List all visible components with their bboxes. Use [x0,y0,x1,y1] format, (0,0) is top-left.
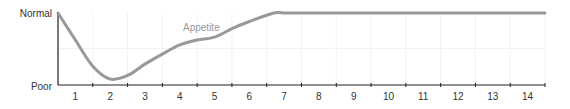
x-tick-label: 9 [351,91,357,102]
x-ticks: 1234567891011121314 [73,83,545,102]
x-tick-label: 11 [418,91,429,102]
x-tick-label: 8 [316,91,322,102]
x-tick-label: 14 [522,91,534,102]
y-tick-label-poor: Poor [31,81,53,92]
appetite-chart: Normal Poor 1234567891011121314 Appetite [0,0,570,109]
x-tick-label: 12 [452,91,464,102]
series-label-appetite: Appetite [183,22,220,33]
x-tick-label: 7 [281,91,287,102]
x-tick-label: 13 [487,91,499,102]
x-tick-label: 6 [247,91,253,102]
x-tick-label: 4 [177,91,183,102]
x-tick-label: 3 [142,91,148,102]
x-tick-label: 5 [212,91,218,102]
x-tick-label: 10 [383,91,395,102]
x-tick-label: 1 [73,91,79,102]
y-tick-label-normal: Normal [20,8,52,19]
x-tick-label: 2 [107,91,113,102]
